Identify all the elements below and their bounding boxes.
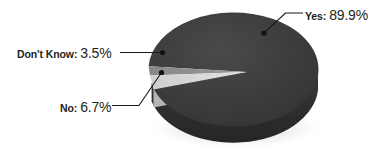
slice-label-dont-know-value: 3.5% bbox=[80, 45, 111, 61]
slice-label-dont-know-name: Don't Know: bbox=[17, 48, 77, 60]
slice-label-no-value: 6.7% bbox=[80, 99, 111, 115]
slice-label-yes: Yes:89.9% bbox=[305, 7, 368, 23]
slice-label-dont-know: Don't Know:3.5% bbox=[17, 45, 111, 61]
slice-label-no-name: No: bbox=[60, 102, 77, 114]
slice-label-no: No:6.7% bbox=[60, 99, 111, 115]
slice-label-yes-name: Yes: bbox=[305, 10, 326, 22]
pie-chart-graphic bbox=[0, 0, 381, 162]
slice-label-yes-value: 89.9% bbox=[329, 7, 368, 23]
pie-chart: Yes:89.9% Don't Know:3.5% No:6.7% bbox=[0, 0, 381, 162]
